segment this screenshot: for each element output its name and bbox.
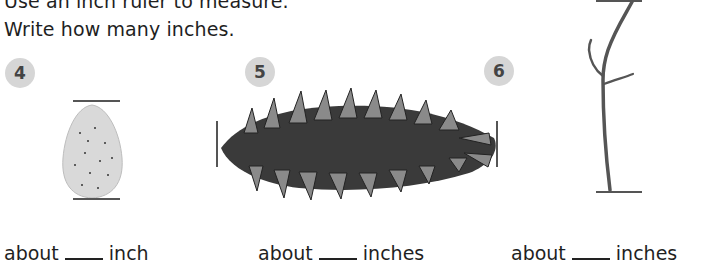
answer-unit: inches [363,242,424,264]
answer-row-5: aboutinches [258,242,424,264]
answer-blank-5[interactable] [319,242,357,260]
almond-top-measure-line [73,100,120,102]
answer-unit: inch [109,242,149,264]
answer-prefix: about [4,242,59,264]
twig-bottom-measure-line [596,191,642,193]
pinecone-left-measure-line [216,121,218,167]
problem-number-badge-4: 4 [5,58,35,88]
twig-image [570,0,650,192]
answer-prefix: about [511,242,566,264]
instruction-line-2: Write how many inches. [4,18,235,40]
almond-image [60,103,125,199]
answer-blank-6[interactable] [572,242,610,260]
problem-number-badge-6: 6 [484,56,514,86]
answer-blank-4[interactable] [65,242,103,260]
answer-unit: inches [616,242,677,264]
answer-row-4: aboutinch [4,242,149,264]
instruction-line-1: Use an inch ruler to measure. [4,0,289,12]
pinecone-right-measure-line [496,121,498,167]
almond-bottom-measure-line [73,198,120,200]
answer-prefix: about [258,242,313,264]
problem-number-badge-5: 5 [245,57,275,87]
answer-row-6: aboutinches [511,242,677,264]
pine-cone-image [219,88,497,203]
